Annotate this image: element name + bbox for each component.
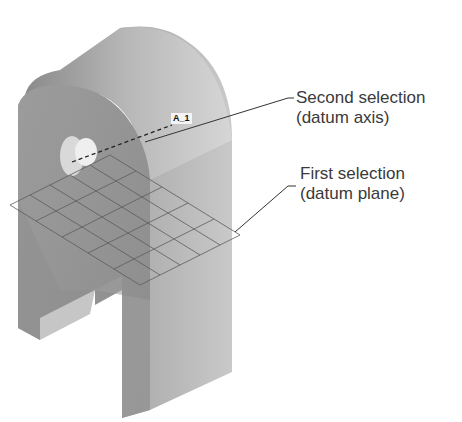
callout-first-line2: (datum plane) <box>300 184 405 204</box>
callout-first-line1: First selection <box>300 164 405 184</box>
part-body <box>18 27 232 419</box>
callout-second-selection: Second selection (datum axis) <box>296 88 425 128</box>
axis-tag: A_1 <box>171 113 192 124</box>
callout-second-line2: (datum axis) <box>296 108 425 128</box>
callout-second-line1: Second selection <box>296 88 425 108</box>
cad-part-drawing <box>0 0 462 422</box>
callout-first-selection: First selection (datum plane) <box>300 164 405 204</box>
